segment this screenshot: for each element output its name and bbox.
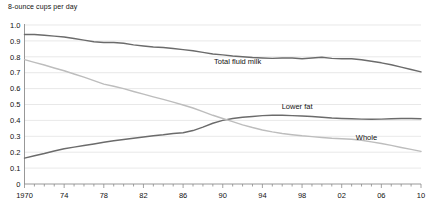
x-tick-label: 98 bbox=[298, 191, 306, 200]
y-tick-label: 0 bbox=[16, 180, 20, 189]
x-axis-tick-labels: 197074788286909498020610 bbox=[16, 191, 425, 200]
y-tick-label: 0.2 bbox=[10, 148, 20, 157]
axis-lines bbox=[25, 24, 422, 184]
x-tick-label: 86 bbox=[179, 191, 187, 200]
gridlines bbox=[25, 25, 422, 168]
x-tick-label: 74 bbox=[60, 191, 68, 200]
series-line-total-fluid-milk bbox=[25, 35, 422, 72]
series-label-whole: Whole bbox=[356, 133, 377, 142]
x-tick-label: 90 bbox=[219, 191, 227, 200]
x-tick-label: 02 bbox=[338, 191, 346, 200]
y-tick-label: 0.4 bbox=[10, 116, 20, 125]
x-tick-label: 1970 bbox=[16, 191, 33, 200]
y-tick-label: 0.9 bbox=[10, 37, 20, 46]
x-tick-label: 06 bbox=[377, 191, 385, 200]
x-tick-label: 82 bbox=[139, 191, 147, 200]
x-tick-label: 10 bbox=[417, 191, 425, 200]
series-label-total-fluid-milk: Total fluid milk bbox=[214, 57, 261, 66]
y-tick-label: 0.7 bbox=[10, 68, 20, 77]
line-chart: 8-ounce cups per day 00.10.20.30.40.50.6… bbox=[0, 0, 432, 204]
x-axis-tick-marks bbox=[25, 184, 422, 188]
y-tick-label: 0.6 bbox=[10, 84, 20, 93]
y-tick-label: 0.3 bbox=[10, 132, 20, 141]
x-tick-label: 78 bbox=[100, 191, 108, 200]
series-label-lower-fat: Lower fat bbox=[282, 102, 314, 111]
x-tick-label: 94 bbox=[258, 191, 266, 200]
y-tick-label: 0.1 bbox=[10, 164, 20, 173]
y-tick-label: 0.5 bbox=[10, 100, 20, 109]
series-labels: Total fluid milkLower fatWhole bbox=[214, 57, 377, 142]
y-tick-label: 1.0 bbox=[10, 21, 20, 30]
plot-area: 00.10.20.30.40.50.60.70.80.91.0 19707478… bbox=[0, 0, 432, 204]
y-tick-label: 0.8 bbox=[10, 53, 20, 62]
y-axis-tick-labels: 00.10.20.30.40.50.60.70.80.91.0 bbox=[10, 21, 20, 189]
